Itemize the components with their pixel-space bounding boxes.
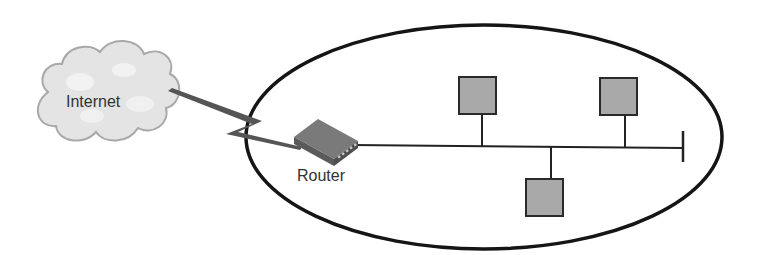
network-diagram [0, 0, 765, 255]
wan-link-icon [168, 88, 302, 150]
router-icon [294, 119, 358, 166]
host-3-icon [526, 179, 563, 216]
internet-label: Internet [66, 93, 120, 111]
lan-bus [352, 145, 683, 148]
host-1-icon [459, 77, 496, 114]
router-label: Router [297, 167, 345, 185]
host-2-icon [600, 78, 637, 115]
internet-cloud-icon [38, 41, 180, 141]
